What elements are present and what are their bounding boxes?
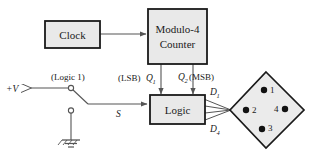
q2-suffix: (MSB) — [189, 72, 214, 82]
led-dot-1[interactable] — [261, 87, 267, 93]
led-label-3: 3 — [268, 123, 273, 133]
led-dot-3[interactable] — [259, 126, 265, 132]
diamond-outline — [230, 72, 304, 148]
switch-contact-ground[interactable] — [68, 108, 73, 113]
q1-prefix: (LSB) — [118, 73, 141, 83]
led-dot-4[interactable] — [282, 106, 288, 112]
ground-hatch-1 — [58, 140, 62, 145]
logic-level-label: (Logic 1) — [51, 72, 85, 82]
ground-hatch-4 — [73, 140, 77, 145]
switch-lever[interactable] — [72, 89, 89, 105]
led-label-4: 4 — [274, 104, 279, 114]
block-logic: Logic — [150, 95, 205, 124]
ground-hatch-3 — [68, 140, 72, 145]
led-dot-2[interactable] — [243, 107, 249, 113]
label-d4: D 4 — [209, 124, 221, 136]
block-counter: Modulo-4 Counter — [148, 9, 207, 64]
ground-hatch-2 — [63, 140, 67, 145]
switch-signal-label: S — [116, 109, 121, 119]
label-q2: Q 2 (MSB) — [178, 72, 214, 84]
logic-label: Logic — [165, 104, 191, 116]
label-q1: (LSB) Q 1 — [118, 73, 156, 85]
diagram-canvas: Clock Modulo-4 Counter Logic 1 2 4 3 — [0, 0, 312, 166]
led-diamond-display[interactable]: 1 2 4 3 — [230, 72, 304, 148]
d1-subscript: 1 — [217, 92, 220, 99]
counter-label-line2: Counter — [160, 38, 196, 50]
q1-subscript: 1 — [153, 78, 156, 85]
switch-contact-supply[interactable] — [68, 85, 73, 90]
block-clock: Clock — [45, 21, 100, 48]
label-d1: D 1 — [209, 87, 220, 99]
q2-subscript: 2 — [185, 77, 189, 84]
led-label-1: 1 — [270, 85, 275, 95]
led-label-2: 2 — [252, 105, 257, 115]
counter-label-line1: Modulo-4 — [156, 23, 201, 35]
circuit-diagram: Clock Modulo-4 Counter Logic 1 2 4 3 — [0, 0, 312, 166]
supply-label: +V — [6, 84, 19, 94]
clock-label: Clock — [59, 29, 86, 41]
counter-box — [148, 9, 207, 64]
d4-subscript: 4 — [217, 129, 221, 136]
